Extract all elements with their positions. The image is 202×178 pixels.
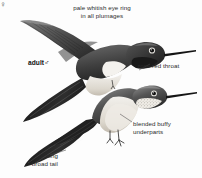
caption-blended-buffy-underparts: blended buffy underparts (133, 120, 199, 135)
lower-bird-bill (166, 92, 197, 98)
upper-bird-bill (164, 50, 196, 56)
upper-bird-eye (150, 48, 154, 52)
female-speckled-throat (136, 98, 162, 109)
caption-pale-whitish-eye-ring: pale whitish eye ring in all plumages (52, 4, 152, 19)
caption-rose-red-throat: rose red throat (138, 62, 200, 70)
lower-bird-eye (152, 92, 156, 96)
male-symbol-icon: ♂ (44, 58, 50, 67)
label-adult-male: adult♂ (28, 59, 50, 67)
label-adult-male-text: adult (28, 59, 44, 66)
illustration-plate: pale whitish eye ring in all plumages ad… (0, 0, 202, 178)
caption-long-broad-tail: long broad tail (6, 152, 58, 167)
